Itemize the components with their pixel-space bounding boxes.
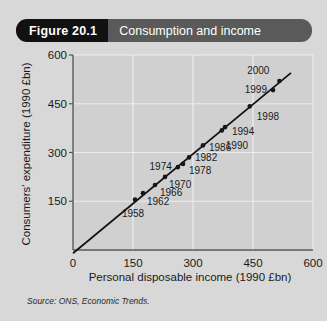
x-axis-title: Personal disposable income (1990 £bn) <box>89 271 292 283</box>
figure-number-label: Figure 20.1 <box>16 19 108 42</box>
data-point <box>201 143 206 148</box>
source-note: Source: ONS, Economic Trends. <box>27 296 150 306</box>
data-point-label: 1999 <box>245 84 268 95</box>
data-point-label: 1994 <box>232 126 255 137</box>
y-tick-label: 150 <box>48 195 67 207</box>
y-tick-label: 450 <box>48 98 67 110</box>
x-axis-tick-labels: 0150300450600 <box>70 257 323 269</box>
data-point <box>133 197 138 202</box>
data-point <box>223 125 228 130</box>
data-point <box>141 191 146 196</box>
data-point-label: 2000 <box>247 65 270 76</box>
x-tick-label: 450 <box>243 257 262 269</box>
data-point-label: 1970 <box>169 179 192 190</box>
y-tick-label: 300 <box>48 147 67 159</box>
data-point <box>277 79 282 84</box>
data-point <box>153 183 158 188</box>
scatter-chart: 1958196219661970197419781982198619901994… <box>0 46 327 286</box>
figure-card: Figure 20.1 Consumption and income 19581… <box>0 0 327 321</box>
data-point-label: 1990 <box>226 140 249 151</box>
data-point <box>181 162 186 167</box>
data-point <box>187 155 192 160</box>
y-axis-tick-labels: 150300450600 <box>48 49 73 207</box>
chart-plot-area: 1958196219661970197419781982198619901994… <box>0 46 327 286</box>
source-prefix: Source: <box>27 296 56 306</box>
data-point-label: 1974 <box>150 161 173 172</box>
data-point-label: 1998 <box>257 111 280 122</box>
y-axis-title: Consumers' expenditure (1990 £bn) <box>20 62 32 245</box>
y-tick-label: 600 <box>48 49 67 61</box>
data-point <box>163 175 168 180</box>
x-tick-label: 300 <box>183 257 202 269</box>
data-point-label: 1958 <box>122 208 145 219</box>
data-point <box>248 104 253 109</box>
data-point-label: 1982 <box>195 152 218 163</box>
x-tick-label: 0 <box>70 257 76 269</box>
x-tick-label: 150 <box>123 257 142 269</box>
figure-title: Consumption and income <box>108 19 261 42</box>
figure-title-bar: Figure 20.1 Consumption and income <box>16 19 312 42</box>
source-text: ONS, Economic Trends. <box>59 296 150 306</box>
x-tick-label: 600 <box>303 257 322 269</box>
data-point-label: 1978 <box>189 165 212 176</box>
data-point <box>271 88 276 93</box>
data-point <box>176 165 181 170</box>
